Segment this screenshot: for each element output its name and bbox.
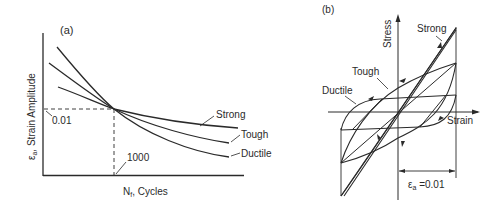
strong-loop-leader <box>436 36 442 41</box>
curve-label-ductile: Ductile <box>241 148 272 159</box>
tough-leader <box>231 135 240 142</box>
x-marker-leader <box>116 162 126 174</box>
loop-label-tough: Tough <box>352 66 379 77</box>
panel-a: (a) 0.01 1000 Strong Tough Ductile εa, S… <box>26 24 272 198</box>
dimension-right-arrow-icon <box>449 169 455 173</box>
tough-loop-leader <box>377 78 388 89</box>
ductile-leader <box>231 153 240 156</box>
curve-label-strong: Strong <box>216 109 245 120</box>
stress-axis-label: Stress <box>382 20 393 48</box>
y-marker-label: 0.01 <box>52 115 72 126</box>
amplitude-label: εa =0.01 <box>408 179 445 191</box>
x-marker-label: 1000 <box>127 152 150 163</box>
x-axis-title: Nf, Cycles <box>123 186 168 198</box>
curve-label-tough: Tough <box>241 129 268 140</box>
strong-direction-arrow-icon <box>437 42 442 48</box>
panel-a-label: (a) <box>60 24 73 36</box>
loop-ductile-unload-left <box>352 99 382 130</box>
ductile-return-arrow-icon <box>401 141 405 147</box>
curve-strong <box>58 87 238 128</box>
panel-b: (b) Stress Strain Strong <box>322 4 480 200</box>
strain-axis-arrow-icon <box>472 110 480 115</box>
curve-ductile <box>57 47 229 157</box>
panel-b-label: (b) <box>322 4 334 15</box>
loop-ductile-unload-right <box>420 95 446 127</box>
stress-axis-arrow-icon <box>396 14 401 22</box>
figure-canvas: (a) 0.01 1000 Strong Tough Ductile εa, S… <box>0 0 502 205</box>
ductile-loop-leader <box>345 96 356 104</box>
strain-axis-label: Strain <box>447 115 473 126</box>
loop-label-ductile: Ductile <box>322 85 353 96</box>
loop-label-strong: Strong <box>417 23 446 34</box>
strong-leader <box>200 116 214 126</box>
tough-direction-arrow-icon <box>399 78 406 83</box>
y-axis-title: εa, Strain Amplitude <box>26 73 38 160</box>
dimension-left-arrow-icon <box>399 169 405 173</box>
curve-tough <box>49 63 229 143</box>
